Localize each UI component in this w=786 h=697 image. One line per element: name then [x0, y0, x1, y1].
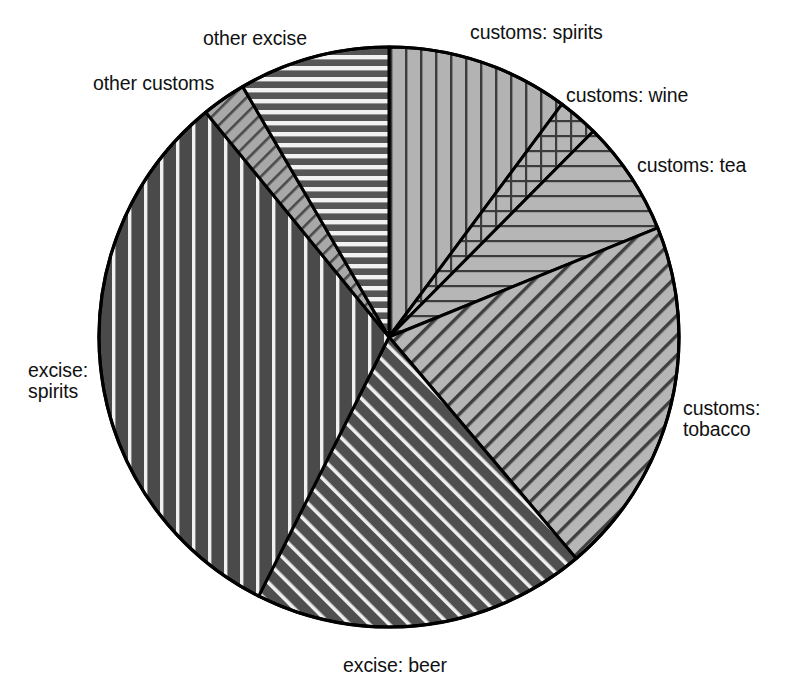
slice-label-customs-tobacco-line1: customs:: [683, 397, 760, 419]
pie-slices: [99, 47, 679, 627]
slice-label-customs-tobacco: customs:tobacco: [683, 398, 760, 440]
pie-chart: customs: spirits customs: wine customs: …: [0, 0, 786, 697]
slice-label-excise-spirits-line2: spirits: [28, 380, 78, 402]
slice-label-customs-spirits: customs: spirits: [470, 22, 603, 43]
slice-label-excise-beer: excise: beer: [343, 655, 447, 676]
slice-label-other-customs: other customs: [93, 73, 214, 94]
slice-label-excise-spirits: excise:spirits: [28, 360, 88, 402]
slice-label-customs-tea: customs: tea: [637, 155, 746, 176]
slice-label-customs-wine: customs: wine: [566, 85, 688, 106]
slice-label-excise-spirits-line1: excise:: [28, 359, 88, 381]
slice-label-other-excise: other excise: [203, 28, 307, 49]
slice-label-customs-tobacco-line2: tobacco: [683, 418, 751, 440]
